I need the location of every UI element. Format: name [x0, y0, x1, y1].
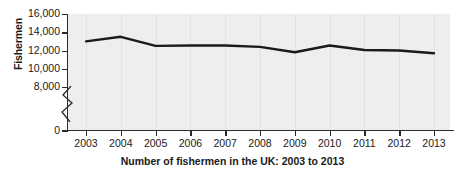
y-tick-mark	[62, 87, 68, 88]
y-tick-mark	[62, 51, 68, 52]
x-tick-mark	[190, 131, 191, 136]
y-axis-title: Fishermen	[12, 4, 24, 84]
x-tick-mark	[156, 131, 157, 136]
line-series	[68, 14, 450, 131]
y-tick-mark	[62, 14, 68, 15]
y-tick-mark	[62, 32, 68, 33]
x-tick-mark	[330, 131, 331, 136]
chart-container: 08,00010,00012,00014,00016,000 200320042…	[0, 0, 465, 180]
x-tick-label: 2013	[412, 137, 456, 149]
x-tick-mark	[86, 131, 87, 136]
y-tick-mark	[62, 69, 68, 70]
y-axis-ticks: 08,00010,00012,00014,00016,000	[0, 0, 60, 180]
x-tick-mark	[364, 131, 365, 136]
x-tick-mark	[295, 131, 296, 136]
x-tick-mark	[260, 131, 261, 136]
x-tick-mark	[225, 131, 226, 136]
series-line-fishermen	[86, 37, 434, 53]
chart-title: Number of fishermen in the UK: 2003 to 2…	[0, 155, 465, 167]
axis-break-icon	[58, 86, 78, 122]
x-tick-mark	[121, 131, 122, 136]
x-tick-mark	[434, 131, 435, 136]
y-tick-label: 0	[4, 124, 60, 136]
x-tick-mark	[399, 131, 400, 136]
y-tick-mark	[62, 131, 68, 132]
